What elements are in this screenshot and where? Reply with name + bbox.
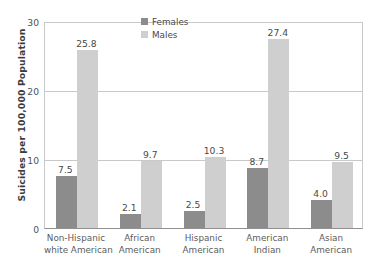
x-axis-label-line: American [299,245,363,257]
x-axis-label-1: AfricanAmerican [108,233,172,256]
value-label-females-1: 2.1 [113,202,146,213]
x-axis-label-line: American [108,245,172,257]
value-label-males-2: 10.3 [198,145,231,156]
y-tick-label-30: 30 [16,17,39,28]
value-label-females-2: 2.5 [177,199,210,210]
legend-label-females: Females [152,17,188,27]
legend-label-males: Males [152,30,177,40]
y-tick-label-20: 20 [16,86,39,97]
value-label-males-1: 9.7 [134,149,167,160]
x-axis-label-3: AmericanIndian [235,233,299,256]
bar-males-3[interactable] [268,39,289,228]
value-label-males-3: 27.4 [261,27,294,38]
legend-item-males[interactable]: Males [141,29,188,40]
bar-females-0[interactable] [56,176,77,228]
x-axis-label-line: American [235,233,299,245]
y-tick-label-10: 10 [16,155,39,166]
legend-item-females[interactable]: Females [141,16,188,27]
x-axis-label-line: African [108,233,172,245]
bar-males-1[interactable] [141,161,162,228]
bar-chart: Suicides per 100,000 Population 30 20 10… [0,0,371,270]
value-label-males-0: 25.8 [70,38,103,49]
value-label-females-0: 7.5 [49,164,82,175]
female-swatch-icon [141,18,148,25]
male-swatch-icon [141,31,148,38]
x-axis-label-4: AsianAmerican [299,233,363,256]
legend: Females Males [141,16,188,42]
bar-males-0[interactable] [77,50,98,228]
y-axis-title: Suicides per 100,000 Population [14,0,30,230]
value-label-females-3: 8.7 [240,156,273,167]
value-label-males-4: 9.5 [325,150,358,161]
bar-females-4[interactable] [311,200,332,228]
x-axis-label-0: Non-Hispanicwhite American [44,233,108,256]
bar-females-2[interactable] [184,211,205,228]
bar-females-1[interactable] [120,214,141,228]
bar-females-3[interactable] [247,168,268,228]
x-axis-label-line: white American [44,245,108,257]
x-axis-label-2: HispanicAmerican [172,233,236,256]
x-axis-label-line: Indian [235,245,299,257]
x-axis-label-line: American [172,245,236,257]
x-axis-label-line: Hispanic [172,233,236,245]
value-label-females-4: 4.0 [304,188,337,199]
x-axis-label-line: Non-Hispanic [44,233,108,245]
x-axis-label-line: Asian [299,233,363,245]
bar-males-2[interactable] [205,157,226,228]
y-tick-label-0: 0 [16,224,39,235]
